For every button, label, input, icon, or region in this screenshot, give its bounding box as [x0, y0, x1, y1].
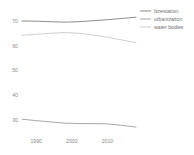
legend-label: water bodies: [154, 24, 184, 30]
y-tick-label: 30: [12, 117, 18, 123]
legend-label: forestation: [154, 8, 178, 14]
legend-label: urbanization: [154, 16, 182, 22]
y-tick-label: 70: [12, 18, 18, 24]
y-tick-label: 50: [12, 67, 18, 73]
x-tick-label: 2000: [66, 138, 78, 144]
line-chart-figure: 7060504030 199020002010 forestationurban…: [0, 0, 194, 155]
y-tick-label: 40: [12, 92, 18, 98]
y-tick-label: 60: [12, 43, 18, 49]
series-line: [22, 33, 136, 43]
series-line: [22, 17, 136, 22]
chart-canvas: 7060504030 199020002010 forestationurban…: [0, 0, 194, 155]
chart-legend: forestationurbanizationwater bodies: [140, 8, 184, 30]
x-tick-label: 1990: [30, 138, 42, 144]
x-tick-label: 2010: [102, 138, 114, 144]
series-line: [22, 119, 136, 127]
x-axis-tick-labels: 199020002010: [30, 138, 113, 144]
series-lines-group: [22, 17, 136, 127]
y-axis-tick-labels: 7060504030: [12, 18, 18, 123]
